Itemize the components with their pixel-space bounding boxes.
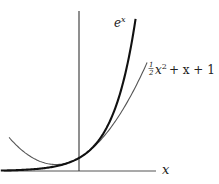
fraction-numerator: 1 [149, 61, 153, 69]
series-line-parabola [9, 63, 147, 165]
series-label-parabola: 1 2 x2+ x + 1 [148, 61, 215, 77]
chart: ex 1 2 x2+ x + 1 x [0, 0, 219, 184]
series-label-exp: ex [114, 15, 126, 30]
fraction-denominator: 2 [148, 69, 154, 77]
x-axis-label: x [162, 162, 170, 177]
parabola-expression: x2+ x + 1 [155, 62, 215, 77]
series-line-exp [1, 19, 136, 171]
